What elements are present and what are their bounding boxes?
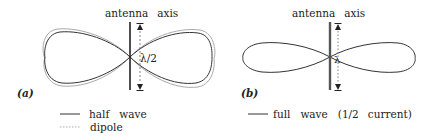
panel-a: antennaaxis λ/2 (a) halfwave dipole bbox=[17, 7, 215, 133]
arrow-head-up-icon bbox=[335, 24, 341, 30]
panel-label-a: (a) bbox=[17, 87, 34, 99]
legend-dipole-label: dipole bbox=[90, 121, 123, 133]
length-label-a: λ/2 bbox=[140, 52, 157, 64]
arrow-head-down-icon bbox=[335, 84, 341, 90]
legend-half-wave-label: halfwave bbox=[89, 108, 147, 120]
axis-label-b: antennaaxis bbox=[292, 7, 365, 19]
panel-label-b: (b) bbox=[241, 87, 258, 99]
axis-label-a: antennaaxis bbox=[105, 7, 178, 19]
arrow-head-down-icon bbox=[137, 84, 143, 90]
radiation-pattern-diagram: antennaaxis λ/2 (a) halfwave dipole ante… bbox=[0, 0, 429, 140]
legend-full-wave-label: fullwave(1/2current) bbox=[273, 108, 412, 120]
arrow-head-up-icon bbox=[137, 24, 143, 30]
panel-b: antennaaxis λ (b) fullwave(1/2current) bbox=[241, 7, 415, 120]
half-wave-pattern-lobes bbox=[45, 32, 212, 84]
length-label-b: λ bbox=[334, 54, 341, 65]
